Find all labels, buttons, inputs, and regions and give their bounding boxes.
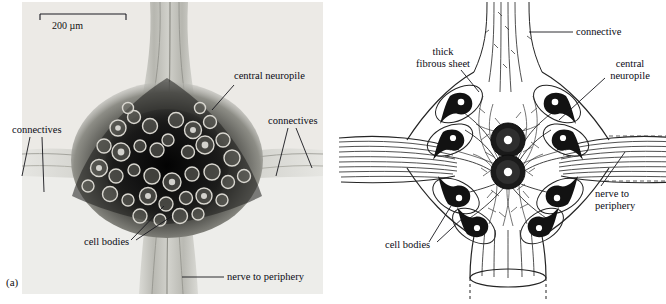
nucleus (474, 225, 480, 231)
label-central-neuropile-a: central neuropile (234, 70, 305, 82)
label-central-neuropile-line1: central (595, 58, 665, 70)
nucleus (504, 168, 512, 176)
label-cell-bodies-b: cell bodies (385, 239, 430, 251)
cell-body-teardrop (546, 176, 578, 207)
nerve-tube-bottom-b (470, 230, 546, 300)
panel-a-micrograph: 200 µm central neuropile connectives con… (0, 0, 333, 304)
micrograph-content (22, 2, 323, 294)
figure-root: 200 µm central neuropile connectives con… (0, 0, 666, 304)
nucleus (536, 225, 542, 231)
cell-body-teardrop (528, 207, 559, 237)
label-thick-fibrous-sheet-line2: fibrous sheet (393, 58, 493, 70)
label-central-neuropile-line2: neuropile (595, 70, 665, 82)
cell-body-teardrop (440, 93, 472, 124)
scale-bar-label: 200 µm (52, 20, 83, 31)
label-nerve-to-periphery-line1: nerve to (595, 188, 635, 200)
label-thick-fibrous-sheet-line1: thick (393, 46, 493, 58)
label-connectives-right: connectives (268, 115, 318, 127)
label-connective-b: connective (576, 26, 621, 38)
label-connectives-left: connectives (12, 124, 62, 136)
nucleus (456, 195, 462, 201)
nucleus (458, 99, 465, 106)
label-thick-fibrous-sheet-b: thick fibrous sheet (393, 46, 493, 69)
cell-body-teardrop (438, 176, 470, 207)
nucleus (450, 135, 456, 141)
diagram-svg (333, 0, 666, 304)
cell-body-teardrop (457, 207, 488, 237)
panel-a-caption: (a) (6, 276, 18, 288)
nucleus (504, 136, 512, 144)
label-cell-bodies-a: cell bodies (84, 236, 129, 248)
nucleus (554, 195, 560, 201)
label-central-neuropile-b: central neuropile (595, 58, 665, 81)
central-large-cell-bodies (491, 123, 525, 189)
label-nerve-to-periphery-line2: periphery (595, 200, 635, 212)
micrograph-svg (0, 0, 333, 304)
nucleus (552, 99, 559, 106)
label-nerve-to-periphery-b: nerve to periphery (595, 188, 635, 211)
label-nerve-to-periphery-a: nerve to periphery (227, 271, 304, 283)
panel-b-diagram: connective thick fibrous sheet central n… (333, 0, 666, 304)
nucleus (560, 135, 566, 141)
